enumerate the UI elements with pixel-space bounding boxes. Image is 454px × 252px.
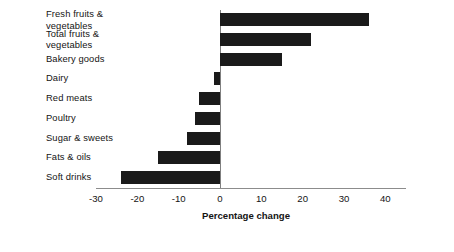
x-tick-label: -20 — [130, 193, 144, 204]
bar — [220, 13, 369, 26]
bar-row — [96, 148, 406, 168]
bar-row — [96, 129, 406, 149]
x-tick-label: 10 — [256, 193, 267, 204]
bar — [187, 132, 220, 145]
x-tick-label: -10 — [172, 193, 186, 204]
bar-row — [96, 109, 406, 129]
bar — [214, 72, 220, 85]
x-tick-label: 40 — [380, 193, 391, 204]
bar-row — [96, 50, 406, 70]
bar-chart: Fresh fruits & vegetablesTotal fruits & … — [0, 0, 454, 252]
bar — [220, 53, 282, 66]
x-tick-label: 30 — [339, 193, 350, 204]
bar — [158, 151, 220, 164]
bar — [220, 33, 311, 46]
bar — [121, 171, 220, 184]
bar-row — [96, 168, 406, 188]
bar-row — [96, 69, 406, 89]
x-axis-ticks: -30-20-10010203040 — [96, 189, 406, 207]
bar-row — [96, 89, 406, 109]
plot-area — [96, 10, 406, 188]
x-axis-title-text: Percentage change — [202, 210, 290, 221]
x-tick-label: -30 — [89, 193, 103, 204]
x-tick-label: 0 — [217, 193, 222, 204]
bar-row — [96, 10, 406, 30]
x-tick-label: 20 — [297, 193, 308, 204]
bar-row — [96, 30, 406, 50]
x-axis-title: Percentage change — [0, 210, 454, 221]
bar — [195, 112, 220, 125]
bar — [199, 92, 220, 105]
